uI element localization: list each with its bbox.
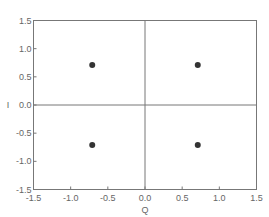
x-tick-label: 0.5 xyxy=(176,193,189,203)
constellation-point xyxy=(195,142,201,148)
x-tick-label: 1.5 xyxy=(250,193,263,203)
constellation-point xyxy=(89,142,95,148)
x-tick-label: 1.0 xyxy=(213,193,226,203)
x-tick-label: 0.0 xyxy=(139,193,152,203)
y-tick-label: 1.0 xyxy=(19,44,32,54)
y-axis-label: I xyxy=(7,100,10,110)
qpsk-constellation-chart: -1.5-1.0-0.50.00.51.01.5 -1.5-1.0-0.50.0… xyxy=(0,0,269,217)
y-tick-label: 1.5 xyxy=(19,16,32,26)
y-tick-label: -1.0 xyxy=(16,156,32,166)
zero-lines xyxy=(34,21,257,190)
constellation-point xyxy=(89,62,95,68)
y-tick-label: 0.0 xyxy=(19,100,32,110)
x-axis-label: Q xyxy=(141,205,148,215)
x-tick-label: -1.5 xyxy=(26,193,42,203)
x-axis-ticks: -1.5-1.0-0.50.00.51.01.5 xyxy=(26,187,263,203)
plot-svg: -1.5-1.0-0.50.00.51.01.5 -1.5-1.0-0.50.0… xyxy=(0,0,269,217)
constellation-point xyxy=(195,62,201,68)
x-tick-label: -1.0 xyxy=(63,193,79,203)
x-tick-label: -0.5 xyxy=(100,193,116,203)
y-tick-label: 0.5 xyxy=(19,72,32,82)
y-tick-label: -0.5 xyxy=(16,128,32,138)
